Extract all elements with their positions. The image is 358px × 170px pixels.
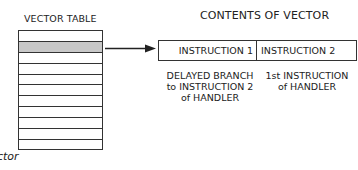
vector-table-row [19, 64, 102, 75]
vector-table-row [19, 31, 102, 42]
instruction-1-cell: INSTRUCTION 1 [159, 41, 257, 60]
vector-table-row [19, 129, 102, 140]
vector-table-row [19, 75, 102, 86]
vector-contents-box: INSTRUCTION 1 INSTRUCTION 2 [158, 40, 357, 61]
vector-table-row [19, 96, 102, 107]
vector-table-row [19, 85, 102, 96]
instruction-1-note: DELAYED BRANCH to INSTRUCTION 2 of HANDL… [160, 70, 260, 103]
arrow-right-icon [105, 44, 157, 53]
vector-table-title: VECTOR TABLE [24, 13, 97, 24]
vector-table-row [19, 118, 102, 129]
vector-table [18, 30, 103, 150]
vector-table-row [19, 140, 102, 151]
vector-table-row-highlighted [19, 42, 102, 53]
contents-title: CONTENTS OF VECTOR [200, 9, 329, 22]
caption-fragment: ctor [0, 150, 19, 163]
instruction-2-cell: INSTRUCTION 2 [257, 41, 356, 60]
vector-table-row [19, 53, 102, 64]
instruction-2-note: 1st INSTRUCTION of HANDLER [262, 70, 352, 92]
vector-table-row [19, 107, 102, 118]
